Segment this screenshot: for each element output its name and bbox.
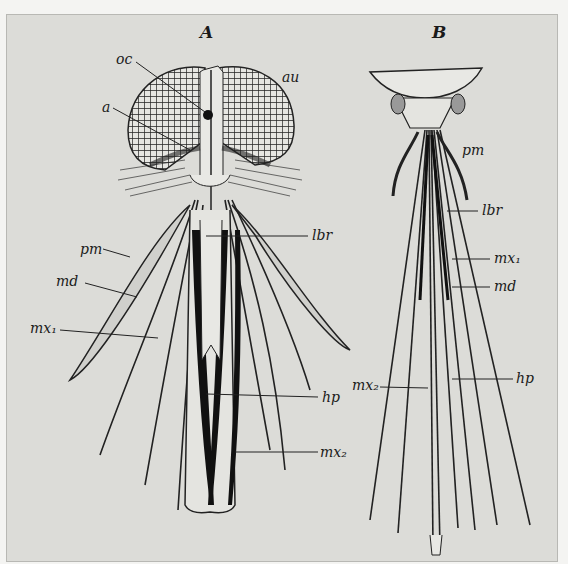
panel-label-b: B xyxy=(431,22,446,42)
label-md-b: md xyxy=(494,278,516,294)
label-mx2-a: mx₂ xyxy=(320,444,347,460)
head-capsule xyxy=(370,68,482,98)
palp-b-left xyxy=(393,132,418,196)
label-lbr-b: lbr xyxy=(482,202,503,218)
label-hp-a: hp xyxy=(322,389,340,405)
label-mx1-a: mx₁ xyxy=(30,320,57,336)
panel-a-drawing xyxy=(70,66,350,513)
labrum-tip xyxy=(200,220,222,360)
label-oc: oc xyxy=(116,51,132,67)
mouthparts-illustration: A oc au a pm md mx₁ lbr hp mx₂ B pm lbr … xyxy=(0,0,568,564)
label-mx2-b: mx₂ xyxy=(352,377,379,393)
label-mx1-b: mx₁ xyxy=(494,250,521,266)
label-md-a: md xyxy=(56,273,78,289)
panel-b-drawing xyxy=(370,68,530,555)
compound-eye-left xyxy=(128,67,205,170)
label-au: au xyxy=(282,69,299,85)
label-pm-b: pm xyxy=(462,142,484,158)
label-lbr-a: lbr xyxy=(312,227,333,243)
label-a: a xyxy=(102,99,110,115)
panel-label-a: A xyxy=(198,22,213,42)
palp-right xyxy=(232,205,350,350)
label-hp-b: hp xyxy=(516,370,534,386)
palp-left xyxy=(70,205,190,380)
label-pm-a: pm xyxy=(80,241,102,257)
